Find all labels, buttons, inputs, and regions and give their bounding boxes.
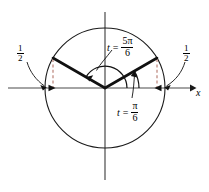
terminal-side-5pi6 <box>53 58 105 88</box>
leader-pi6 <box>132 74 135 99</box>
value-label-left-half: 12 <box>17 44 24 64</box>
value-label-right-half: 12 <box>183 44 190 64</box>
axes-group <box>8 12 197 180</box>
angle-label-pi6-fraction: π6 <box>131 101 138 123</box>
angle-label-5pi6-numerator: 5π <box>121 36 133 48</box>
angle-label-5pi6: t=5π6 <box>107 36 133 58</box>
angle-label-5pi6-denominator: 6 <box>121 48 133 59</box>
marker-right-pos-half <box>155 85 162 92</box>
marker-left-neg-half <box>49 85 56 92</box>
unit-circle-figure <box>0 0 209 192</box>
value-label-left-half-fraction: 12 <box>17 44 24 64</box>
x-axis-label: x <box>196 88 200 98</box>
value-label-right-half-fraction: 12 <box>183 44 190 64</box>
terminal-side-pi6 <box>105 58 157 88</box>
leader-half-left <box>27 62 45 86</box>
angle-label-pi6-numerator: π <box>131 101 138 113</box>
arc-5pi6 <box>86 66 127 88</box>
angle-label-pi6: t=π6 <box>117 101 138 123</box>
angle-label-pi6-equals: = <box>120 107 132 118</box>
angle-label-pi6-denominator: 6 <box>131 113 138 124</box>
angle-label-5pi6-fraction: 5π6 <box>121 36 133 58</box>
value-label-right-half-denominator: 2 <box>183 54 190 63</box>
angle-label-5pi6-equals: = <box>110 42 122 53</box>
value-label-left-half-denominator: 2 <box>17 54 24 63</box>
leader-half-right <box>167 62 186 86</box>
